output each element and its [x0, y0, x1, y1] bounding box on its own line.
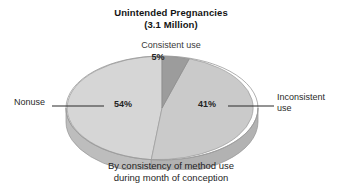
callout-inconsistent-use: Inconsistent use [277, 92, 339, 113]
callout-consistent-use: Consistent use [0, 40, 342, 51]
chart-caption: By consistency of method use during mont… [0, 160, 342, 184]
callout-nonuse: Nonuse [14, 97, 45, 108]
chart-caption-line-2: during month of conception [0, 172, 342, 184]
value-label-nonuse: 54% [108, 99, 138, 109]
chart-caption-line-1: By consistency of method use [0, 160, 342, 172]
pie-chart-figure: Unintended Pregnancies (3.1 Million) [0, 0, 342, 190]
value-label-inconsistent: 41% [192, 99, 222, 109]
value-label-consistent: 5% [143, 52, 173, 62]
